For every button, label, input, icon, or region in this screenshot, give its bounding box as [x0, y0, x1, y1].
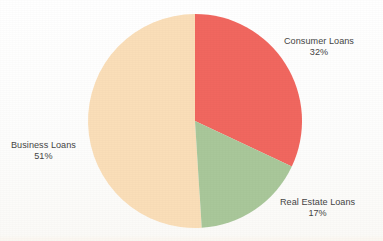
pie-slice-business-loans[interactable] — [88, 14, 202, 228]
pie-label-business-loans-value: 51% — [11, 151, 76, 162]
pie-label-real-estate-loans-name: Real Estate Loans — [280, 197, 355, 208]
pie-chart-figure: Consumer Loans 32% Real Estate Loans 17%… — [0, 0, 383, 241]
pie-label-real-estate-loans-value: 17% — [280, 208, 355, 219]
pie-label-consumer-loans: Consumer Loans 32% — [284, 36, 354, 59]
pie-label-business-loans: Business Loans 51% — [11, 140, 76, 163]
pie-label-business-loans-name: Business Loans — [11, 140, 76, 151]
pie-label-real-estate-loans: Real Estate Loans 17% — [280, 197, 355, 220]
pie-label-consumer-loans-name: Consumer Loans — [284, 36, 354, 47]
pie-label-consumer-loans-value: 32% — [284, 47, 354, 58]
